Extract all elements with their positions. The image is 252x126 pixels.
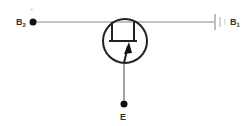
ujt-schematic [0, 0, 252, 126]
b1-label-subscript: 1 [237, 22, 240, 28]
b2-label-subscript: 2 [23, 22, 26, 28]
b2-label: B2 [16, 18, 26, 28]
emitter-arrow-icon [124, 42, 132, 54]
b2-plus-sign: + [30, 6, 34, 12]
e-label: E [120, 113, 126, 122]
b2-terminal-dot [30, 19, 37, 26]
b1-label: B1 [230, 18, 240, 28]
e-terminal-dot [121, 101, 128, 108]
